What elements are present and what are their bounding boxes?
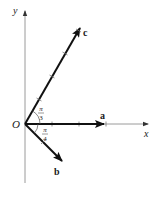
angle-label-pi-over-4: π 4	[42, 126, 48, 143]
origin-label: O	[12, 118, 20, 130]
angle-label-pi-over-3: π 3	[38, 105, 44, 122]
vector-c-label: c	[83, 27, 88, 38]
vector-b-label: b	[54, 166, 60, 177]
angle-pi4-numerator: π	[43, 126, 47, 134]
angle-arc-ab	[34, 124, 38, 133]
angle-pi3-numerator: π	[39, 105, 43, 113]
angle-pi3-denominator: 3	[39, 114, 43, 122]
vector-diagram: π 3 π 4 y x O a c b	[0, 0, 159, 197]
angle-pi4-denominator: 4	[43, 135, 47, 143]
vector-c	[25, 28, 80, 124]
vector-a-label: a	[100, 110, 105, 121]
x-axis-label: x	[143, 128, 149, 139]
y-axis-label: y	[12, 5, 18, 16]
